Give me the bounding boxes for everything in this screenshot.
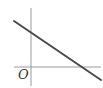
plot-area bbox=[0, 0, 103, 88]
coordinate-diagram: O bbox=[0, 0, 103, 88]
origin-label: O bbox=[18, 68, 29, 81]
